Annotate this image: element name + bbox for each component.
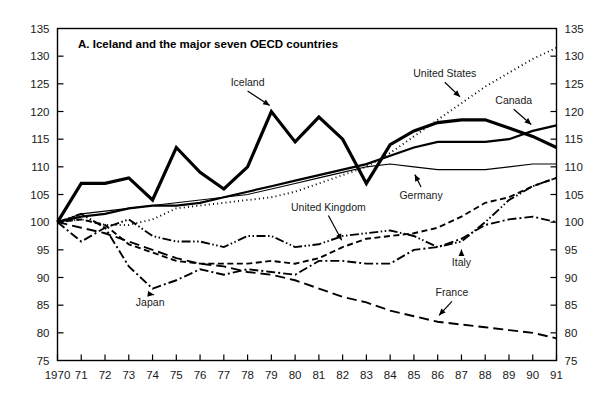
x-tick-label: 75	[170, 369, 183, 381]
y-tick-label-right: 115	[565, 133, 583, 145]
x-tick-label: 83	[360, 369, 373, 381]
x-tick-label: 86	[431, 369, 444, 381]
y-tick-label-left: 105	[30, 189, 49, 201]
y-tick-label-right: 125	[565, 78, 584, 90]
x-tick-label: 78	[241, 369, 254, 381]
x-tick-label: 76	[194, 369, 207, 381]
y-tick-label-right: 75	[565, 355, 578, 367]
x-tick-label: 72	[99, 369, 112, 381]
x-tick-label: 80	[289, 369, 302, 381]
y-tick-label-right: 85	[565, 299, 578, 311]
x-tick-label: 81	[312, 369, 325, 381]
x-tick-label: 73	[122, 369, 135, 381]
y-tick-label-right: 105	[565, 189, 584, 201]
y-tick-label-right: 110	[565, 161, 583, 173]
series-label-canada: Canada	[495, 94, 532, 106]
series-label-iceland: Iceland	[231, 76, 265, 88]
x-tick-label: 88	[479, 369, 492, 381]
x-tick-label: 84	[384, 369, 397, 381]
y-tick-label-left: 135	[30, 23, 49, 35]
chart-figure: 7580859095100105110115120125130135 75808…	[0, 0, 614, 405]
y-tick-label-right: 135	[565, 23, 584, 35]
y-tick-label-left: 95	[37, 244, 50, 256]
series-label-france: France	[436, 286, 469, 298]
x-tick-label: 82	[336, 369, 349, 381]
y-tick-label-right: 120	[565, 106, 584, 118]
x-tick-label: 79	[265, 369, 278, 381]
y-tick-label-right: 130	[565, 50, 584, 62]
x-tick-label: 77	[217, 369, 230, 381]
x-tick-label: 71	[75, 369, 88, 381]
panel-title: A. Iceland and the major seven OECD coun…	[78, 38, 338, 50]
y-tick-label-left: 130	[30, 50, 49, 62]
y-tick-label-right: 95	[565, 244, 578, 256]
y-tick-label-right: 80	[565, 327, 578, 339]
x-tick-label: 90	[526, 369, 539, 381]
y-tick-label-left: 110	[31, 161, 49, 173]
x-tick-label: 89	[503, 369, 516, 381]
series-label-united-states: United States	[413, 67, 476, 79]
x-tick-label: 87	[455, 369, 468, 381]
y-tick-label-left: 115	[31, 133, 49, 145]
chart-canvas: 7580859095100105110115120125130135 75808…	[0, 0, 614, 405]
series-label-united-kingdom: United Kingdom	[291, 201, 366, 213]
series-label-germany: Germany	[399, 189, 443, 201]
series-label-japan: Japan	[136, 296, 165, 308]
series-label-italy: Italy	[452, 256, 472, 268]
y-tick-label-left: 100	[30, 216, 49, 228]
x-tick-label: 74	[146, 369, 159, 381]
y-tick-label-left: 80	[37, 327, 50, 339]
y-tick-label-left: 75	[37, 355, 50, 367]
x-tick-label: 85	[408, 369, 421, 381]
y-tick-label-left: 125	[30, 78, 49, 90]
x-tick-label: 91	[550, 369, 563, 381]
y-tick-label-right: 100	[565, 216, 584, 228]
y-tick-label-left: 120	[30, 106, 49, 118]
y-tick-label-right: 90	[565, 272, 578, 284]
x-tick-label: 1970	[45, 369, 71, 381]
y-tick-label-left: 90	[37, 272, 50, 284]
y-tick-label-left: 85	[37, 299, 50, 311]
